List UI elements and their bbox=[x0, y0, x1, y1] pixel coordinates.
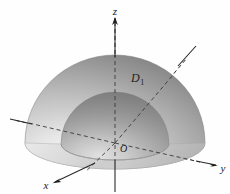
coordinate-diagram: z y x O D1 bbox=[0, 0, 230, 194]
x-axis-label: x bbox=[43, 179, 49, 191]
figure-container: z y x O D1 bbox=[0, 0, 230, 194]
region-label-letter: D bbox=[130, 71, 140, 85]
region-label-subscript: 1 bbox=[140, 78, 144, 87]
y-axis-label: y bbox=[220, 162, 226, 174]
origin-label: O bbox=[120, 143, 127, 154]
z-axis-label: z bbox=[112, 5, 118, 17]
x-axis-arrowhead bbox=[53, 178, 62, 183]
negative-x-axis-solid bbox=[178, 46, 196, 66]
